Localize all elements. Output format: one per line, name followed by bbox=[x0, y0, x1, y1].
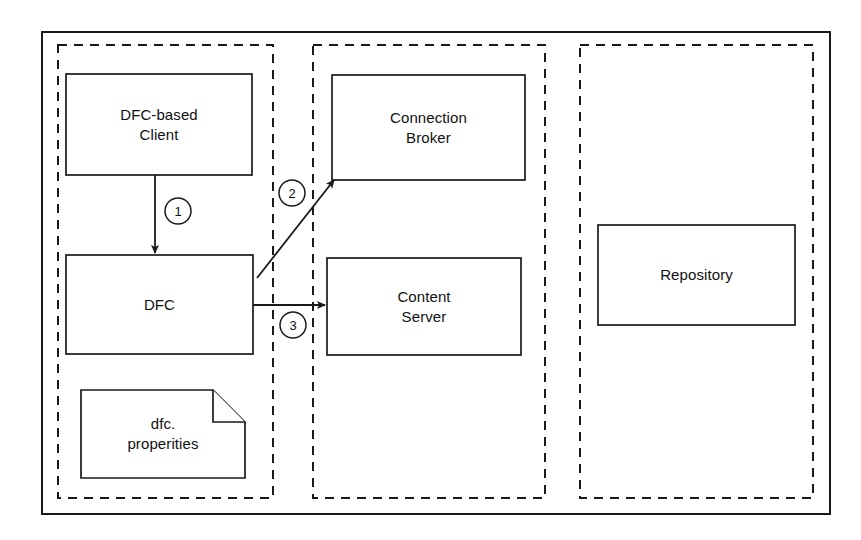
node-repository[interactable] bbox=[598, 225, 795, 325]
step-marker-3-circle bbox=[280, 312, 306, 338]
node-connection-broker[interactable] bbox=[332, 75, 525, 180]
architecture-diagram bbox=[0, 0, 861, 540]
step-marker-2-circle bbox=[279, 180, 305, 206]
node-dfc-based-client[interactable] bbox=[66, 74, 252, 175]
node-content-server[interactable] bbox=[327, 258, 521, 355]
node-dfc[interactable] bbox=[66, 255, 253, 354]
diagram-canvas: DFC-based Client DFC dfc. properities Co… bbox=[0, 0, 861, 540]
step-marker-1-circle bbox=[165, 198, 191, 224]
